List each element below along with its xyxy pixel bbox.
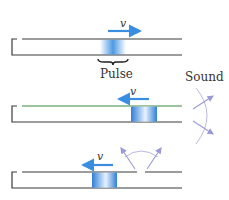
brace-icon [98,59,128,65]
pulse [100,40,126,55]
panel-1: v Pulse [12,17,182,81]
sound-label: Sound [185,70,224,84]
pulse [131,107,157,122]
velocity-label: v [130,85,137,98]
sound-arrow-icon [121,148,135,169]
panel-2: v Sound [12,70,224,144]
sound-arrow-icon [147,148,161,169]
pulse [92,173,117,188]
sound-wavefront-arc [196,88,207,144]
tube-diagram: v Pulse v Sound v [0,0,229,200]
velocity-label: v [120,17,127,30]
tube [12,39,182,55]
sound-wavefront-arc [125,151,158,157]
pulse-label: Pulse [100,67,133,81]
velocity-label: v [97,150,104,163]
panel-3: v [12,148,182,188]
